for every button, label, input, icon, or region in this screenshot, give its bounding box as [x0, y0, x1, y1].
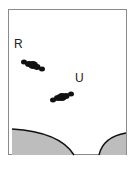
tissue-left: [12, 129, 74, 155]
diagram-canvas: [0, 0, 139, 172]
cell-cluster-u: [50, 92, 74, 103]
cell-cluster-r: [21, 60, 45, 72]
tissue-right: [99, 133, 126, 155]
